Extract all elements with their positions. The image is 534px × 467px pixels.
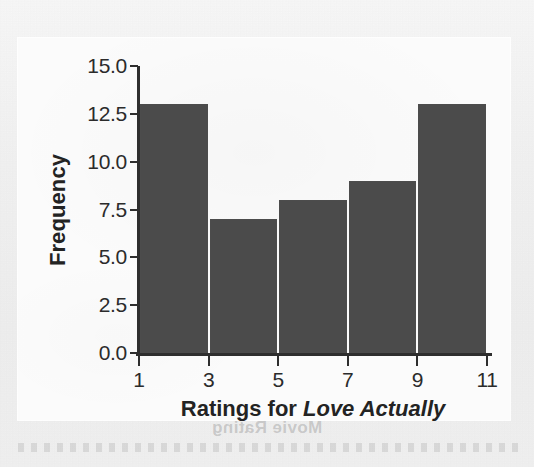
- plot-area: 0.02.55.07.510.012.515.0 1357911: [139, 66, 487, 353]
- x-axis-line: [136, 353, 492, 356]
- x-axis-tick: [416, 356, 418, 366]
- x-axis-tick: [277, 356, 279, 366]
- y-axis-tick: [130, 161, 138, 163]
- y-axis-tick-label: 15.0: [87, 54, 127, 78]
- histogram-bar: [140, 104, 208, 353]
- y-axis-tick-label: 12.5: [87, 102, 127, 126]
- y-axis-tick: [130, 256, 138, 258]
- y-axis-tick: [130, 209, 138, 211]
- y-axis-tick-label: 7.5: [99, 197, 127, 221]
- x-axis-title-film-name: Love Actually: [303, 396, 445, 421]
- y-axis-tick: [130, 352, 138, 354]
- y-axis-tick-label: 0.0: [99, 341, 127, 365]
- histogram-figure-page: Movie Rating Frequency 0.02.55.07.510.01…: [0, 0, 534, 467]
- x-axis-tick: [208, 356, 210, 366]
- y-axis-tick-label: 5.0: [99, 245, 127, 269]
- y-axis-title-text: Frequency: [45, 153, 71, 265]
- y-axis-tick-label: 2.5: [99, 293, 127, 317]
- x-axis-tick-label: 5: [272, 368, 283, 392]
- y-axis-tick: [130, 304, 138, 306]
- x-axis-tick-label: 7: [342, 368, 353, 392]
- histogram-bar: [418, 104, 486, 353]
- y-axis-tick-label: 10.0: [87, 149, 127, 173]
- x-axis-tick: [138, 356, 140, 366]
- y-axis-title: Frequency: [44, 66, 72, 353]
- histogram-bar: [279, 200, 347, 353]
- histogram-bar: [349, 181, 417, 353]
- bleed-through-line-lower: [18, 443, 520, 452]
- x-axis-tick-label: 11: [476, 368, 497, 392]
- x-axis-title-prefix: Ratings for: [181, 396, 303, 421]
- x-axis-tick: [486, 356, 488, 366]
- x-axis-title: Ratings for Love Actually: [139, 396, 487, 422]
- x-axis-tick-label: 9: [412, 368, 423, 392]
- x-axis-tick-label: 1: [133, 368, 144, 392]
- x-axis-tick-label: 3: [203, 368, 214, 392]
- histogram-bar: [210, 219, 278, 353]
- y-axis-tick: [130, 113, 138, 115]
- x-axis-tick: [347, 356, 349, 366]
- y-axis-tick: [130, 65, 138, 67]
